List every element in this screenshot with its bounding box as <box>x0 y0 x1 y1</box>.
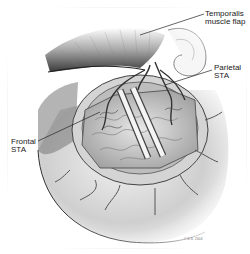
label-line: STA <box>11 146 36 154</box>
craniotomy-illustration <box>0 0 250 254</box>
artist-signature: © D.S. 2004 <box>184 237 203 241</box>
label-frontal-sta: Frontal STA <box>11 138 36 154</box>
label-temporalis-muscle-flap: Temporalis muscle flap <box>205 10 245 26</box>
label-parietal-sta: Parietal STA <box>214 64 241 80</box>
label-line: STA <box>214 72 241 80</box>
label-line: muscle flap <box>205 18 245 26</box>
